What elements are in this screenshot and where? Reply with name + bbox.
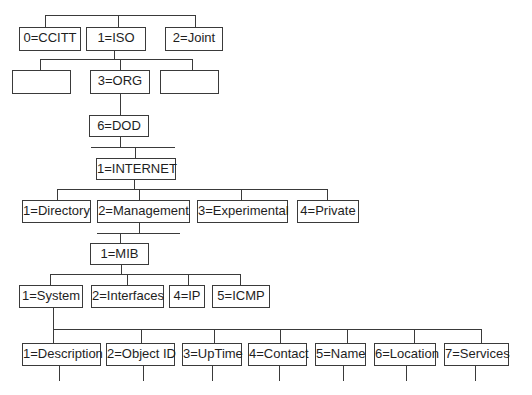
node-description: 1=Description [22,343,101,366]
connector-line [195,15,196,27]
connector-line [212,366,213,381]
node-label: 5=ICMP [217,288,264,303]
node-label: 5=Name [316,346,366,361]
node-joint: 2=Joint [165,27,223,51]
node-empty-left [12,70,71,94]
connector-line [347,329,348,343]
connector-line [53,329,54,343]
connector-line [134,180,135,189]
node-private: 4=Private [297,200,359,223]
connector-line [327,189,328,200]
node-object-id: 2=Object ID [106,343,175,366]
node-label: 0=CCITT [23,30,76,45]
node-experimental: 3=Experimental [197,200,288,223]
connector-line [59,366,60,381]
connector-line [280,329,281,343]
node-uptime: 3=UpTime [182,343,242,366]
node-system: 1=System [19,285,83,308]
connector-line [192,59,193,70]
connector-line [57,189,327,190]
node-label: 2=Joint [173,30,215,45]
node-label: 6=Location [375,346,439,361]
node-label: 1=Directory [23,203,90,218]
connector-line [53,308,54,329]
node-label: 1=System [22,288,80,303]
connector-line [475,366,476,381]
node-label: 1=MIB [101,246,139,261]
connector-line [45,15,195,16]
connector-line [481,329,482,343]
node-services: 7=Services [444,343,509,366]
node-location: 6=Location [374,343,436,366]
connector-line [141,329,142,343]
separator-line [97,233,180,234]
node-label: 4=IP [173,288,200,303]
connector-line [214,329,215,343]
connector-line [188,274,189,285]
node-empty-right [160,70,219,94]
connector-line [57,189,58,200]
connector-line [50,274,240,275]
node-name: 5=Name [315,343,366,366]
node-org: 3=ORG [90,70,150,94]
node-interfaces: 2=Interfaces [91,285,164,308]
connector-line [121,265,122,274]
connector-line [120,137,121,147]
node-iso: 1=ISO [86,27,146,51]
node-mib: 1=MIB [90,243,149,265]
connector-line [135,147,136,158]
node-ip: 4=IP [169,285,205,308]
connector-line [139,189,140,200]
node-contact: 4=Contact [248,343,307,366]
connector-line [127,274,128,285]
node-label: 3=ORG [98,73,142,88]
connector-line [241,189,242,200]
node-ccitt: 0=CCITT [19,27,81,51]
connector-line [114,51,115,59]
connector-line [120,59,121,70]
connector-line [118,15,119,27]
node-label: 3=UpTime [183,346,243,361]
node-label: 1=INTERNET [97,161,177,176]
connector-line [414,329,415,343]
separator-line [91,147,175,148]
connector-line [406,366,407,381]
connector-line [40,59,41,70]
node-label: 2=Management [98,203,189,218]
connector-line [53,329,482,330]
connector-line [143,366,144,381]
node-label: 7=Services [445,346,510,361]
connector-line [279,366,280,381]
connector-line [120,233,121,243]
connector-line [45,15,46,27]
connector-line [50,274,51,285]
node-label: 2=Interfaces [92,288,164,303]
node-label: 1=ISO [97,30,134,45]
node-internet: 1=INTERNET [96,158,176,180]
node-management: 2=Management [97,200,190,223]
connector-line [120,94,121,115]
node-dod: 6=DOD [89,115,149,137]
node-label: 4=Contact [249,346,309,361]
connector-line [40,59,192,60]
connector-line [139,223,140,233]
connector-line [343,366,344,381]
node-label: 2=Object ID [107,346,176,361]
node-label: 1=Description [23,346,103,361]
snmp-mib-tree-diagram: 0=CCITT 1=ISO 2=Joint 3=ORG 6=DOD 1=INTE… [0,0,532,395]
node-label: 3=Experimental [198,203,289,218]
node-label: 4=Private [300,203,355,218]
node-icmp: 5=ICMP [212,285,270,308]
node-label: 6=DOD [97,118,141,133]
connector-line [240,274,241,285]
node-directory: 1=Directory [22,200,91,223]
